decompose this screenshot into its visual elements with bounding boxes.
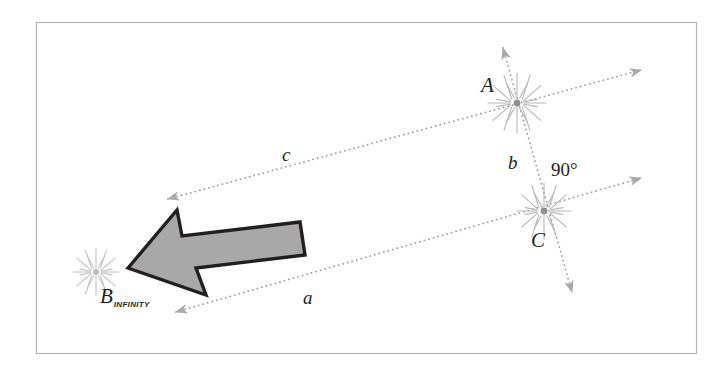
label-point-a: A: [481, 75, 494, 96]
label-point-b-infinity: BINFINITY: [100, 286, 149, 307]
label-point-b: B: [100, 284, 113, 308]
label-side-c: c: [282, 145, 290, 164]
label-side-a: a: [303, 288, 313, 307]
label-right-angle: 90°: [551, 160, 578, 179]
label-point-c: C: [531, 230, 545, 251]
label-side-b: b: [508, 153, 518, 172]
label-point-b-subscript: INFINITY: [114, 300, 150, 309]
diagram-canvas: [0, 0, 728, 368]
figure-root: A C BINFINITY c a b 90°: [0, 0, 728, 368]
